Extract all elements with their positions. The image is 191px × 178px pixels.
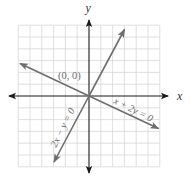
coordinate-plane: x y (0, 0) x + 2y = 0 2x − y = 0 — [0, 0, 191, 178]
line-2x-minus-y — [89, 30, 125, 97]
origin-label: (0, 0) — [58, 70, 81, 82]
y-axis-label: y — [85, 1, 92, 15]
x-axis-label: x — [176, 89, 183, 103]
